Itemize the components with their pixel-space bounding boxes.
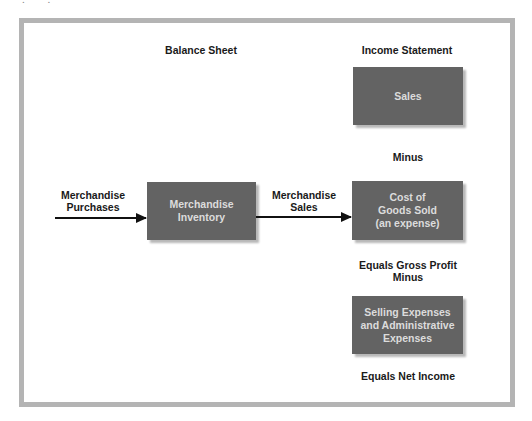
cogs-box-line-3: (an expense) [375,217,439,230]
sales-label-line-2: Sales [272,201,336,213]
sales-box: Sales [353,67,463,125]
selling-box-line-2: and Administrative [360,319,454,332]
minus-label-1: Minus [393,151,423,163]
purchases-label-line-1: Merchandise [61,189,125,201]
equals-gross-profit-label: Equals Gross Profit [359,259,457,271]
inventory-box-line-2: Inventory [178,211,225,224]
cogs-box-line-1: Cost of [389,191,425,204]
inventory-box-line-1: Merchandise [169,198,233,211]
cogs-box-line-2: Goods Sold [378,204,437,217]
income-statement-header: Income Statement [362,44,452,56]
equals-net-income-label: Equals Net Income [361,370,455,382]
cost-of-goods-sold-box: Cost of Goods Sold (an expense) [352,181,463,240]
sales-arrow-icon [256,216,351,218]
balance-sheet-header: Balance Sheet [165,44,237,56]
sales-box-text: Sales [394,90,421,103]
sales-label-line-1: Merchandise [272,189,336,201]
cropped-text-fragment: '. '. [14,0,56,5]
selling-box-line-1: Selling Expenses [364,306,450,319]
merchandise-inventory-box: Merchandise Inventory [147,182,256,240]
purchases-arrow-icon [55,217,146,219]
selling-admin-expenses-box: Selling Expenses and Administrative Expe… [352,296,463,354]
merchandise-sales-label: Merchandise Sales [272,189,336,213]
merchandise-purchases-label: Merchandise Purchases [61,189,125,213]
selling-box-line-3: Expenses [383,332,432,345]
purchases-label-line-2: Purchases [61,201,125,213]
minus-label-2: Minus [393,271,423,283]
